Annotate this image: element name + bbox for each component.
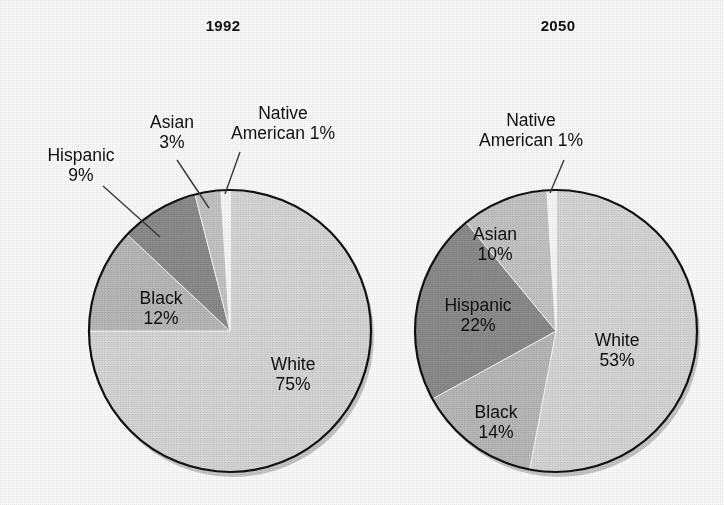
chart-title-1992: 1992 [163, 17, 283, 34]
slice-label-hispanic-2050-name: Hispanic [425, 295, 531, 315]
slice-label-white-1992: White 75% [248, 354, 338, 394]
slice-label-black-1992-name: Black [116, 288, 206, 308]
callout-native-american-2050-l2: American 1% [418, 130, 644, 150]
slice-label-hispanic-2050-value: 22% [425, 315, 531, 335]
slice-label-hispanic-2050: Hispanic 22% [425, 295, 531, 335]
slice-label-asian-2050-value: 10% [450, 244, 540, 264]
pie-slice-white-1992 [89, 190, 371, 472]
leader-native-1992 [225, 152, 240, 194]
callout-native-american-2050: Native American 1% [418, 110, 644, 150]
callout-hispanic-1992: Hispanic 9% [22, 145, 140, 185]
slice-label-white-2050-name: White [572, 330, 662, 350]
callout-native-american-2050-l1: Native [418, 110, 644, 130]
callout-asian-1992: Asian 3% [128, 112, 216, 152]
slice-label-white-2050-value: 53% [572, 350, 662, 370]
slice-label-black-2050-name: Black [451, 402, 541, 422]
pie-slice-texture [547, 190, 556, 331]
slice-label-white-2050: White 53% [572, 330, 662, 370]
pie-slice-texture [432, 331, 556, 470]
pie-slice-texture [89, 190, 371, 472]
pie-slice-native-american-2050 [547, 190, 556, 331]
leader-asian-1992 [177, 160, 209, 208]
callout-asian-1992-value: 3% [128, 132, 216, 152]
leader-hispanic-1992 [103, 186, 160, 237]
slice-label-black-1992: Black 12% [116, 288, 206, 328]
pie-charts-graphic [0, 0, 724, 505]
pie-outline [89, 190, 371, 472]
pie-slice-texture [221, 190, 230, 331]
pie-slice-black-2050 [432, 331, 556, 470]
slice-label-white-1992-name: White [248, 354, 338, 374]
callout-native-american-1992-l2: American 1% [208, 123, 358, 143]
callout-hispanic-1992-value: 9% [22, 165, 140, 185]
chart-title-2050: 2050 [498, 17, 618, 34]
pie-shadow [92, 195, 374, 477]
callout-native-american-1992-l1: Native [208, 103, 358, 123]
pie-slice-native-american-1992 [221, 190, 230, 331]
slice-label-black-1992-value: 12% [116, 308, 206, 328]
slice-label-black-2050: Black 14% [451, 402, 541, 442]
paper-grain-overlay [0, 0, 724, 505]
slice-label-white-1992-value: 75% [248, 374, 338, 394]
figure-canvas: 1992 2050 Hispanic 9% Asian 3% Native Am… [0, 0, 724, 505]
callout-asian-1992-name: Asian [128, 112, 216, 132]
callout-native-american-1992: Native American 1% [208, 103, 358, 143]
pie-chart-1992 [89, 190, 374, 477]
slice-label-black-2050-value: 14% [451, 422, 541, 442]
leader-native-2050 [550, 160, 564, 193]
slice-label-asian-2050-name: Asian [450, 224, 540, 244]
slice-label-asian-2050: Asian 10% [450, 224, 540, 264]
callout-hispanic-1992-name: Hispanic [22, 145, 140, 165]
